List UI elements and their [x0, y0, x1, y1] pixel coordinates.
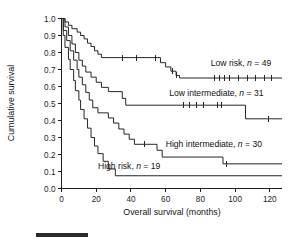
- x-tick-label: 0: [59, 195, 64, 204]
- y-tick-label: 0.6: [44, 83, 56, 92]
- x-tick-label: 120: [263, 195, 277, 204]
- x-axis-tick-labels: 020406080100120: [59, 195, 277, 204]
- y-tick-label: 0.2: [44, 151, 56, 160]
- x-tick-label: 40: [126, 195, 136, 204]
- y-tick-label: 0.9: [44, 32, 56, 41]
- y-tick-label: 0.8: [44, 49, 56, 58]
- y-tick-label: 0.5: [44, 100, 56, 109]
- y-tick-label: 0.3: [44, 134, 56, 143]
- x-tick-label: 60: [161, 195, 171, 204]
- survival-curve: [62, 19, 283, 119]
- x-axis-title: Overall survival (months): [123, 207, 220, 217]
- series-label: Low intermediate, n = 31: [169, 88, 264, 98]
- y-tick-label: 0.4: [44, 117, 56, 126]
- survival-curve: [62, 19, 283, 79]
- series-label: High risk, n = 19: [98, 161, 161, 171]
- kaplan-meier-figure: 0.00.10.20.30.40.50.60.70.80.91.0 020406…: [0, 0, 294, 240]
- y-tick-label: 0.7: [44, 66, 56, 75]
- km-plot: 0.00.10.20.30.40.50.60.70.80.91.0 020406…: [0, 0, 294, 240]
- y-tick-label: 0.1: [44, 168, 56, 177]
- x-tick-label: 100: [228, 195, 242, 204]
- series-label: High intermediate, n = 30: [166, 139, 262, 149]
- y-tick-label: 0.0: [44, 185, 56, 194]
- y-tick-label: 1.0: [44, 15, 56, 24]
- caption-rule: [36, 233, 88, 237]
- x-tick-label: 80: [196, 195, 206, 204]
- y-axis-title: Cumulative survival: [6, 65, 16, 141]
- series-label: Low risk, n = 49: [211, 58, 272, 68]
- y-axis-ticks: [58, 19, 62, 189]
- x-tick-label: 20: [92, 195, 102, 204]
- x-axis-ticks: [62, 189, 270, 193]
- y-axis-tick-labels: 0.00.10.20.30.40.50.60.70.80.91.0: [44, 15, 56, 194]
- censor-marks: [122, 55, 271, 167]
